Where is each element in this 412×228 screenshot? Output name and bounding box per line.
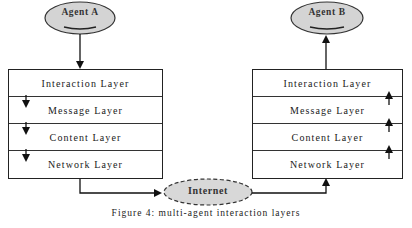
layer-label: Network Layer: [48, 159, 123, 170]
left-interaction-layer: Interaction Layer: [9, 70, 162, 97]
agent-a-label: Agent A: [55, 7, 105, 17]
right-interaction-layer: Interaction Layer: [253, 70, 402, 97]
right-network-layer: Network Layer: [253, 151, 402, 178]
left-layer-stack: Interaction Layer Message Layer Content …: [8, 69, 163, 179]
internet-label: Internet: [168, 185, 248, 196]
left-network-layer: Network Layer: [9, 151, 162, 178]
left-message-layer: Message Layer: [9, 97, 162, 124]
right-content-layer: Content Layer: [253, 124, 402, 151]
arrow-internet-to-right-stack: [252, 180, 326, 193]
layer-label: Content Layer: [50, 132, 122, 143]
layer-label: Interaction Layer: [42, 78, 130, 89]
layer-label: Content Layer: [292, 132, 364, 143]
layer-label: Interaction Layer: [284, 78, 372, 89]
right-message-layer: Message Layer: [253, 97, 402, 124]
layer-label: Message Layer: [290, 105, 365, 116]
layer-label: Message Layer: [48, 105, 123, 116]
agent-b-label: Agent B: [302, 7, 352, 17]
left-content-layer: Content Layer: [9, 124, 162, 151]
figure-caption: Figure 4: multi-agent interaction layers: [0, 208, 412, 218]
arrow-left-stack-to-internet: [80, 178, 160, 193]
layer-label: Network Layer: [290, 159, 365, 170]
right-layer-stack: Interaction Layer Message Layer Content …: [252, 69, 403, 179]
